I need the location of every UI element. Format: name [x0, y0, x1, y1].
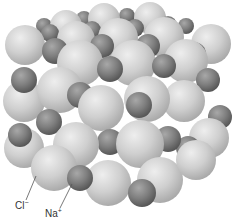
- ion-spheres: [3, 2, 232, 207]
- sodium-ion-sphere: [11, 67, 37, 93]
- chloride-label: Cl−: [15, 199, 29, 211]
- sodium-ion-sphere: [97, 56, 123, 82]
- chloride-ion-sphere: [5, 25, 45, 65]
- sodium-ion-sphere: [128, 179, 156, 207]
- sodium-ion-sphere: [67, 165, 93, 191]
- chloride-leader-line: [26, 176, 36, 200]
- sodium-ion-sphere: [8, 123, 32, 147]
- chloride-charge: −: [24, 199, 28, 206]
- nacl-lattice-diagram: [0, 0, 244, 224]
- sodium-ion-sphere: [126, 92, 152, 118]
- sodium-charge: +: [58, 207, 62, 214]
- chloride-ion-sphere: [176, 140, 216, 180]
- sodium-ion-sphere: [152, 54, 176, 78]
- sodium-label: Na+: [45, 207, 62, 219]
